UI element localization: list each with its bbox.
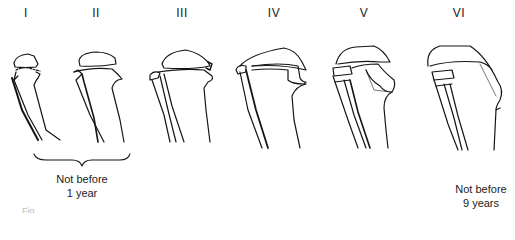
stage-2-bone-drawing <box>74 52 124 142</box>
stage-3-bone-drawing <box>150 50 213 142</box>
annotation-not-before-1-year: Not before 1 year <box>52 172 112 200</box>
stage-4-bone-drawing <box>236 48 306 148</box>
stage-6-bone-drawing <box>428 46 502 150</box>
stage-5-bone-drawing <box>333 46 395 148</box>
annotation-2-line-1: Not before <box>450 182 512 196</box>
annotation-not-before-9-years: Not before 9 years <box>450 182 512 210</box>
stage-1-bone-drawing <box>12 54 60 140</box>
grouping-brace <box>34 154 130 166</box>
annotation-1-line-2: 1 year <box>52 186 112 200</box>
annotation-1-line-1: Not before <box>52 172 112 186</box>
annotation-2-line-2: 9 years <box>450 196 512 210</box>
figure-caption-fragment: Fig. ... <box>22 206 47 213</box>
